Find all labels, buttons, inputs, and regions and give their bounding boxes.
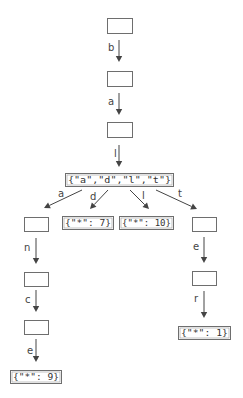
- edge-a: a: [108, 93, 122, 115]
- node-box: [193, 218, 217, 232]
- trie-node: [108, 72, 133, 87]
- trie-node: [25, 218, 49, 232]
- edge-b: b: [108, 40, 122, 62]
- edge-n: n: [24, 238, 39, 264]
- arrowhead-icon: [33, 258, 39, 264]
- node-label: {"a","d","l","t"}: [68, 174, 171, 185]
- edge-e: e: [193, 237, 207, 263]
- arrowhead-icon: [116, 56, 122, 62]
- trie-node-labeled: {"*": 9}: [11, 371, 62, 384]
- edge-line: [156, 190, 192, 206]
- trie-node: [108, 19, 133, 34]
- trie-node: [193, 218, 217, 232]
- edge-label: e: [27, 345, 33, 356]
- trie-node: [193, 272, 217, 286]
- arrowhead-icon: [33, 356, 39, 362]
- edge-label: d: [90, 191, 96, 202]
- edge-label: b: [108, 42, 114, 53]
- trie-diagram: baladltnceer{"a","d","l","t"}{"*": 7}{"*…: [0, 0, 243, 398]
- arrowhead-icon: [201, 257, 207, 263]
- edge-e: e: [27, 339, 39, 362]
- trie-node: [25, 273, 49, 287]
- trie-node-labeled: {"a","d","l","t"}: [66, 174, 174, 187]
- trie-node: [25, 321, 49, 335]
- edge-line: [49, 190, 82, 205]
- edge-c: c: [25, 290, 39, 312]
- edge-t: t: [156, 188, 197, 209]
- edge-d: d: [90, 190, 108, 209]
- trie-node-labeled: {"*": 7}: [63, 217, 114, 230]
- arrowhead-icon: [201, 312, 207, 318]
- edge-label: a: [58, 188, 64, 199]
- arrowhead-icon: [116, 161, 122, 167]
- edge-label: c: [25, 294, 31, 305]
- edge-label: r: [194, 293, 199, 304]
- node-label: {"*": 7}: [65, 217, 111, 228]
- node-box: [108, 123, 133, 138]
- node-label: {"*": 10}: [122, 217, 171, 228]
- trie-node-labeled: {"*": 10}: [120, 217, 174, 230]
- edge-r: r: [194, 291, 207, 318]
- trie-node-labeled: {"*": 1}: [179, 327, 231, 340]
- edge-label: e: [193, 241, 199, 252]
- edge-label: l: [142, 190, 145, 201]
- edge-label: l: [114, 148, 117, 159]
- trie-node: [108, 123, 133, 138]
- node-box: [25, 273, 49, 287]
- node-box: [25, 321, 49, 335]
- node-label: {"*": 9}: [13, 371, 59, 382]
- arrowhead-icon: [33, 306, 39, 312]
- node-box: [193, 272, 217, 286]
- edge-label: t: [178, 188, 182, 199]
- edge-a: a: [44, 188, 82, 208]
- node-box: [108, 72, 133, 87]
- edge-l: l: [114, 145, 122, 167]
- arrowhead-icon: [116, 109, 122, 115]
- edge-label: n: [24, 242, 30, 253]
- edge-label: a: [108, 96, 114, 107]
- edge-l: l: [130, 190, 149, 209]
- node-box: [108, 19, 133, 34]
- node-box: [25, 218, 49, 232]
- node-label: {"*": 1}: [181, 327, 228, 338]
